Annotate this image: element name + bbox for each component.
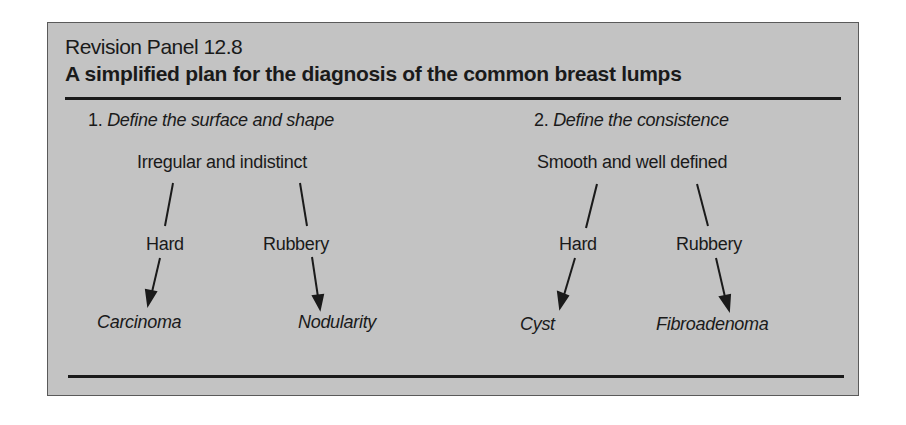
step-2-heading: 2. Define the consistence [534, 111, 729, 129]
bottom-divider [68, 375, 844, 378]
step-2-index: 2. [534, 110, 548, 130]
step-1-index: 1. [88, 110, 102, 130]
result-nodularity: Nodularity [298, 313, 376, 331]
step-1-heading: 1. Define the surface and shape [88, 111, 334, 129]
panel-number: Revision Panel 12.8 [65, 36, 242, 57]
step-2-root: Smooth and well defined [537, 153, 727, 171]
step-1-label: Define the surface and shape [107, 110, 334, 130]
step-1-branch-rubbery: Rubbery [263, 235, 329, 253]
revision-panel: Revision Panel 12.8 A simplified plan fo… [47, 22, 859, 396]
step-1-branch-hard: Hard [146, 235, 184, 253]
result-cyst: Cyst [520, 315, 555, 333]
step-1-root: Irregular and indistinct [137, 153, 307, 171]
result-fibroadenoma: Fibroadenoma [656, 315, 768, 333]
panel-title: A simplified plan for the diagnosis of t… [65, 63, 682, 84]
step-2-branch-rubbery: Rubbery [676, 235, 742, 253]
title-divider [65, 97, 841, 100]
step-2-label: Define the consistence [553, 110, 729, 130]
result-carcinoma: Carcinoma [97, 313, 181, 331]
step-2-branch-hard: Hard [559, 235, 597, 253]
